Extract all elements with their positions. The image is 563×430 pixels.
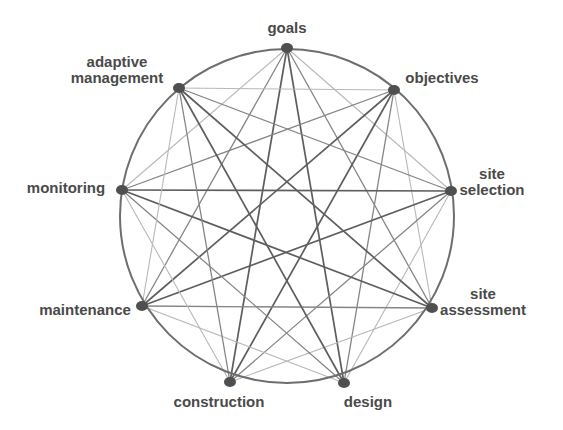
node-construction [224, 377, 236, 387]
node-site-selection [445, 186, 457, 196]
edge-site-assessment-monitoring [122, 190, 432, 308]
node-maintenance [136, 301, 148, 311]
label-construction: construction [174, 394, 265, 410]
label-site-assessment: siteassessment [440, 286, 526, 318]
edge-site-assessment-maintenance [142, 306, 432, 308]
label-design: design [344, 394, 392, 410]
edge-site-assessment-adaptive-management [179, 88, 432, 308]
edge-site-selection-construction [230, 191, 451, 382]
label-monitoring: monitoring [27, 180, 105, 196]
label-goals: goals [267, 20, 306, 36]
node-goals [281, 43, 293, 53]
label-maintenance: maintenance [39, 302, 131, 318]
node-adaptive-management [173, 83, 185, 93]
label-objectives: objectives [405, 70, 478, 86]
node-objectives [388, 85, 400, 95]
edge-objectives-adaptive-management [179, 88, 394, 90]
edge-design-monitoring [122, 190, 344, 383]
edges-layer [122, 48, 451, 383]
label-adaptive-management: adaptivemanagement [71, 54, 164, 86]
node-design [338, 378, 350, 388]
edge-site-selection-monitoring [122, 190, 451, 191]
label-site-selection: siteselection [459, 166, 524, 198]
node-monitoring [116, 185, 128, 195]
nodes-layer [116, 43, 457, 388]
node-site-assessment [426, 303, 438, 313]
